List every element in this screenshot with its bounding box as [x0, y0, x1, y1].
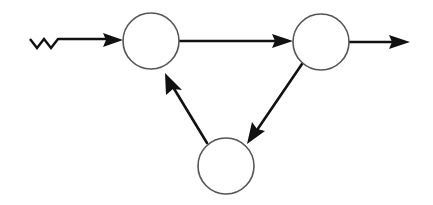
feedback-loop-diagram	[0, 0, 433, 205]
node-b	[293, 14, 349, 70]
arrowhead-a-to-b	[272, 34, 293, 48]
input-zigzag	[30, 39, 108, 48]
arrowhead-b-to-c	[247, 122, 265, 144]
input-arrowhead	[103, 33, 123, 47]
output-edge	[349, 35, 410, 49]
input-edge	[30, 33, 123, 48]
output-arrowhead	[389, 35, 410, 49]
node-a	[123, 13, 179, 69]
edge-a-to-b	[179, 34, 293, 48]
node-c	[198, 138, 254, 194]
edge-b-to-c	[247, 64, 302, 144]
arrowhead-c-to-a	[165, 73, 182, 95]
edge-c-to-a	[165, 73, 207, 143]
